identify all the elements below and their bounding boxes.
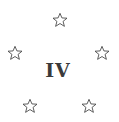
star-bottom-left-icon xyxy=(22,98,38,114)
star-left-icon xyxy=(7,45,23,61)
roman-numeral: IV xyxy=(45,61,71,80)
star-top-icon xyxy=(52,12,68,28)
star-right-icon xyxy=(94,45,110,61)
star-bottom-right-icon xyxy=(81,98,97,114)
